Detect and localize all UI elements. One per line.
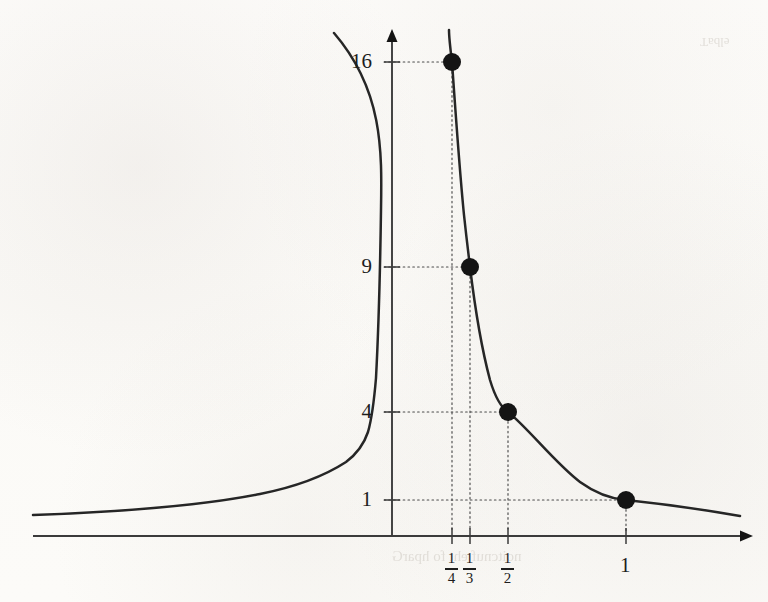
y-axis-label-4: 4 [338,401,372,422]
fraction-numerator: 1 [446,551,458,567]
y-axis-arrow-icon [387,29,398,42]
x-axis-label-one-half: 1 2 [501,551,514,587]
y-axis-label-1: 1 [338,489,372,510]
fraction-denominator: 2 [502,571,514,587]
data-point-quarter-16[interactable] [443,53,461,71]
fraction-numerator: 1 [502,551,514,567]
y-axis-label-16: 16 [338,51,372,72]
data-point-half-4[interactable] [499,403,517,421]
fraction-numerator: 1 [464,551,476,567]
tick-marks-group [384,62,626,544]
graph-canvas [0,0,768,602]
y-axis-label-9: 9 [338,256,372,277]
x-axis-label-one-quarter: 1 4 [445,551,458,587]
fraction-denominator: 4 [446,571,458,587]
data-point-one-1[interactable] [617,491,635,509]
x-axis-arrow-icon [740,531,753,542]
curve-right-branch [449,30,740,516]
axis-group [33,29,753,542]
curve-group [33,30,740,516]
data-point-third-9[interactable] [461,258,479,276]
figure-root: noitcnuf eht fo hparG elbaT [0,0,768,602]
curve-left-branch [33,33,381,515]
x-axis-label-one-third: 1 3 [463,551,476,587]
x-axis-label-one: 1 [620,555,631,576]
guide-lines-group [384,62,626,531]
fraction-denominator: 3 [464,571,476,587]
